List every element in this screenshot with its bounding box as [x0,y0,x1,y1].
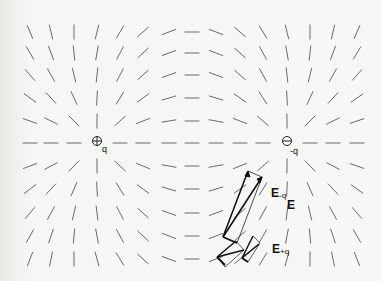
dipole-field-diagram: q -q E-q E E+q [0,0,381,281]
charges-layer [0,0,381,281]
label-e-minus-q: E-q [271,184,286,200]
positive-charge-label: q [102,145,107,154]
positive-charge-icon [93,137,102,146]
label-e-total: E [287,196,295,212]
label-e-plus-q: E+q [272,240,289,256]
negative-charge-icon [283,137,292,146]
negative-charge-label: -q [290,147,298,156]
